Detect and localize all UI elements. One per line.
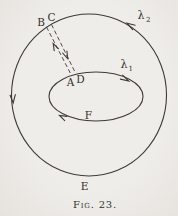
cut-line-right [52, 25, 76, 73]
outer-left-arrowhead [10, 95, 15, 103]
label-point-b: B [37, 16, 45, 28]
inner-bottom-arrowhead [60, 116, 67, 121]
cut-line-left [47, 27, 71, 74]
label-point-e: E [81, 180, 89, 192]
inner-contour-curve [49, 72, 143, 121]
label-point-c: C [47, 11, 55, 23]
label-point-d: D [76, 73, 84, 85]
lambda2-subscript: 2 [146, 16, 150, 24]
label-point-f: F [85, 109, 92, 121]
cut-up-arrowhead [53, 44, 58, 51]
figure-caption: Fig. 23. [73, 199, 117, 210]
label-point-a: A [66, 76, 75, 88]
lambda2-base: λ [138, 9, 145, 22]
figure-canvas: B C A D F E λ2 λ1 Fig. 23. [0, 0, 178, 216]
lambda1-base: λ [121, 58, 128, 71]
label-lambda2: λ2 [138, 9, 151, 24]
label-lambda1: λ1 [121, 58, 133, 73]
scanned-page: B C A D F E λ2 λ1 Fig. 23. [0, 0, 178, 216]
lambda1-subscript: 1 [128, 65, 132, 73]
